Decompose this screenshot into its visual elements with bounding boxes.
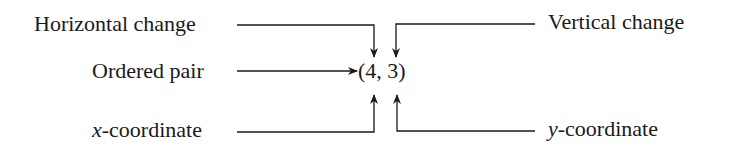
vertical-change-arrow <box>396 24 535 57</box>
x-coordinate-arrow <box>237 95 374 132</box>
horizontal-change-arrow <box>237 25 374 57</box>
y-coordinate-arrow <box>397 95 535 131</box>
connector-lines <box>0 0 736 156</box>
